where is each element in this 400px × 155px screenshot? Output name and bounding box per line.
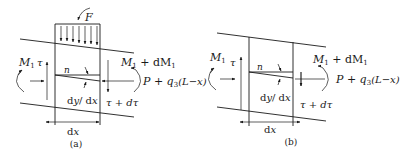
slope-arrow-upper <box>278 64 281 71</box>
left-shear-label: τ <box>37 57 43 68</box>
slope-arrow-upper <box>85 67 88 74</box>
beam-top-edge <box>217 33 326 47</box>
right-moment-arrowhead <box>318 66 323 68</box>
neutral-label: n <box>64 65 70 75</box>
right-moment-label: M1 + dM1 <box>312 53 368 67</box>
dx-label: dx <box>264 124 276 135</box>
panel-b: n dy/ dx M1 τ M1 + dM1 P + q3(L−x) τ + d… <box>208 33 399 147</box>
left-moment-label: M1 <box>209 51 226 65</box>
right-moment-arc <box>322 68 328 91</box>
right-axial-label: P + q3(L−x) <box>335 73 400 87</box>
right-axial-label: P + q3(L−x) <box>142 75 207 89</box>
neutral-axis-inclined <box>55 75 100 81</box>
beam-top-edge <box>20 39 134 53</box>
left-moment-arc <box>208 68 216 90</box>
slope-label: dy/ dx <box>260 92 291 103</box>
slope-arrow-lower <box>84 82 86 88</box>
dx-label: dx <box>67 126 79 137</box>
force-f-label: F <box>84 11 93 24</box>
panel-a: F n dy/ dx M1 τ M1 + dM1 P + q3(L−x) τ +… <box>16 8 206 149</box>
distributed-load-arrows <box>61 26 97 45</box>
caption-b: (b) <box>285 137 298 147</box>
right-shear-label: τ + dτ <box>300 99 333 110</box>
caption-a: (a) <box>70 139 82 149</box>
left-moment-arc <box>16 70 24 92</box>
neutral-label: n <box>257 62 263 72</box>
right-moment-label: M1 + dM1 <box>120 56 176 70</box>
right-moment-arc <box>134 70 141 92</box>
neutral-axis-inclined <box>249 72 293 78</box>
left-moment-label: M1 <box>18 56 35 70</box>
slope-label: dy/ dx <box>67 95 98 106</box>
right-shear-label: τ + dτ <box>106 97 139 108</box>
slope-arrow-lower <box>278 79 280 85</box>
left-shear-label: τ <box>230 57 236 68</box>
free-body-diagrams: F n dy/ dx M1 τ M1 + dM1 P + q3(L−x) τ +… <box>0 0 400 155</box>
